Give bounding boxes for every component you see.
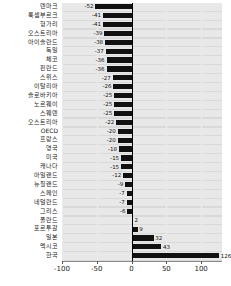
axis-tick-label: 0 <box>129 265 133 274</box>
row-stripe <box>62 217 222 225</box>
category-label: 영국 <box>0 144 58 152</box>
bar <box>132 253 220 258</box>
row-stripe <box>62 172 222 180</box>
category-label: 캐나다 <box>0 162 58 170</box>
row-stripe <box>62 128 222 136</box>
category-label: 그리스 <box>0 207 58 215</box>
bar <box>105 40 131 45</box>
category-label: 헝가리 <box>0 20 58 28</box>
x-axis: -100-50050100 <box>62 261 222 283</box>
bar-value-label: -41 <box>90 11 101 19</box>
bar <box>118 138 132 143</box>
category-label: 멕시코 <box>0 242 58 250</box>
row-stripe <box>62 190 222 198</box>
category-label: 체코 <box>0 55 58 63</box>
bar <box>118 129 132 134</box>
bar-value-label: -15 <box>108 163 119 171</box>
bar-value-label: -39 <box>91 29 102 37</box>
bar-chart: 덴마크-52룩셈부르크-41헝가리-41오스트리아-39아이슬란드-38독일-3… <box>0 0 231 286</box>
bar <box>121 164 131 169</box>
bar <box>114 102 131 107</box>
bar-value-label: -22 <box>103 118 114 126</box>
bar-value-label: -27 <box>100 74 111 82</box>
bar <box>103 13 132 18</box>
axis-tick <box>166 261 167 264</box>
row-stripe <box>62 163 222 171</box>
row-stripe <box>62 110 222 118</box>
axis-tick <box>201 261 202 264</box>
category-label: 오스트리아 <box>0 29 58 37</box>
bar-value-label: -25 <box>101 109 112 117</box>
row-stripe <box>62 136 222 144</box>
category-label: 아일랜드 <box>0 171 58 179</box>
category-label: 독일 <box>0 46 58 54</box>
axis-tick <box>132 261 133 264</box>
bar <box>113 75 132 80</box>
bar <box>114 111 131 116</box>
bar-value-label: -41 <box>90 20 101 28</box>
category-label: 오스트리아 <box>0 118 58 126</box>
bar <box>103 22 132 27</box>
category-label: 이탈리아 <box>0 82 58 90</box>
row-stripe <box>62 145 222 153</box>
zero-line <box>132 3 133 261</box>
axis-tick-label: 50 <box>162 265 171 274</box>
row-stripe <box>62 47 222 55</box>
bar-value-label: -20 <box>105 127 116 135</box>
category-label: 네덜란드 <box>0 198 58 206</box>
axis-tick <box>97 261 98 264</box>
bar-value-label: -25 <box>101 100 112 108</box>
bar-value-label: -36 <box>94 56 105 64</box>
bar <box>107 57 132 62</box>
row-stripe <box>62 119 222 127</box>
bar-value-label: -9 <box>112 180 123 188</box>
axis-tick-label: -50 <box>91 265 102 274</box>
bar-value-label: -38 <box>92 38 103 46</box>
bar-value-label: -36 <box>94 65 105 73</box>
category-label: 아이슬란드 <box>0 38 58 46</box>
category-label: 폴란드 <box>0 216 58 224</box>
bar <box>132 235 154 240</box>
row-stripe <box>62 181 222 189</box>
bar-value-label: -15 <box>108 154 119 162</box>
bar-value-label: -7 <box>114 189 125 197</box>
row-stripe <box>62 21 222 29</box>
bar-value-label: -26 <box>100 82 111 90</box>
row-stripe <box>62 74 222 82</box>
category-label: 룩셈부르크 <box>0 11 58 19</box>
bar <box>121 155 131 160</box>
category-label: 프랑스 <box>0 135 58 143</box>
row-stripe <box>62 208 222 216</box>
bar-value-label: -20 <box>105 136 116 144</box>
category-label: 덴마크 <box>0 2 58 10</box>
category-label: 포르투갈 <box>0 224 58 232</box>
row-stripe <box>62 92 222 100</box>
category-label: 스위스 <box>0 73 58 81</box>
bar <box>95 4 131 9</box>
bar-value-label: 2 <box>134 216 138 224</box>
bar-value-label: -25 <box>101 91 112 99</box>
bar-value-label: -6 <box>114 207 125 215</box>
category-label: OECD <box>0 127 58 135</box>
row-stripe <box>62 12 222 20</box>
category-label: 슬로바키아 <box>0 91 58 99</box>
bar <box>113 84 131 89</box>
category-label: 한국 <box>0 251 58 259</box>
row-stripe <box>62 199 222 207</box>
bar-value-label: 126 <box>221 252 231 260</box>
row-stripe <box>62 65 222 73</box>
axis-tick-label: -100 <box>54 265 70 274</box>
bar <box>114 93 131 98</box>
axis-tick-label: 100 <box>194 265 207 274</box>
row-stripe <box>62 83 222 91</box>
row-stripe <box>62 39 222 47</box>
bar <box>132 244 162 249</box>
category-label: 스웨덴 <box>0 109 58 117</box>
bar-value-label: -52 <box>82 2 93 10</box>
bar <box>104 31 131 36</box>
row-stripe <box>62 101 222 109</box>
category-label: 일본 <box>0 233 58 241</box>
bar-value-label: 43 <box>163 243 170 251</box>
bar <box>107 66 132 71</box>
bar <box>106 49 132 54</box>
